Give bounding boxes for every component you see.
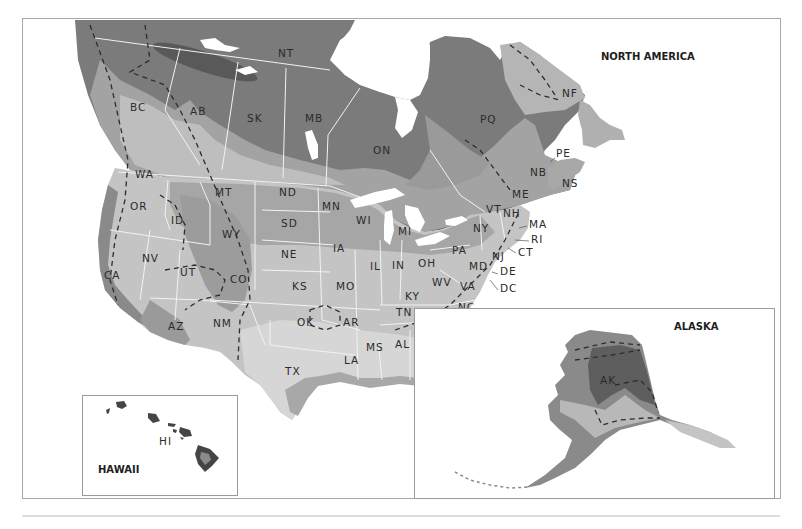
region-label-nt: NT [278,47,294,59]
region-label-ca: CA [104,269,121,281]
region-label-sd: SD [281,217,298,229]
region-label-wi: WI [356,214,371,226]
region-label-ma: MA [529,218,547,230]
region-label-ut: UT [180,266,196,278]
region-label-wa: WA [135,168,154,180]
region-label-il: IL [370,260,381,272]
region-label-az: AZ [168,320,184,332]
region-label-pe: PE [556,147,571,159]
north-america-zone-map: NORTH AMERICA NTBCABSKMBONPQNFPENBNS WAO… [0,0,802,529]
region-label-oh: OH [418,257,436,269]
region-label-ok: OK [297,316,314,328]
region-label-va: VA [460,280,476,292]
region-label-ne: NE [281,248,298,260]
region-label-or: OR [130,200,148,212]
region-label-nf: NF [562,87,578,99]
region-label-nh: NH [503,207,521,219]
alaska-inset: ALASKA AK [415,309,775,499]
region-label-ny: NY [473,222,489,234]
region-label-ky: KY [405,290,420,302]
region-label-vt: VT [486,203,502,215]
map-title: NORTH AMERICA [601,51,695,62]
alaska-label: AK [600,374,616,386]
region-label-ar: AR [343,316,359,328]
region-label-ri: RI [531,233,543,245]
region-label-sk: SK [247,112,263,124]
hawaii-inset-title: HAWAII [98,464,139,475]
region-label-dc: DC [500,282,517,294]
region-label-md: MD [469,260,488,272]
region-label-pa: PA [452,244,467,256]
region-label-mt: MT [215,186,232,198]
region-label-de: DE [500,265,517,277]
region-label-wy: WY [222,228,241,240]
region-label-al: AL [395,338,410,350]
region-label-nd: ND [279,186,297,198]
region-label-ct: CT [518,246,534,258]
region-label-tn: TN [395,306,412,318]
region-label-mn: MN [322,200,341,212]
region-label-co: CO [230,273,248,285]
region-label-mo: MO [336,280,355,292]
region-label-id: ID [171,214,184,226]
region-label-la: LA [344,354,359,366]
region-label-ns: NS [562,177,579,189]
hawaii-label: HI [159,435,172,447]
region-label-bc: BC [130,101,146,113]
region-label-mi: MI [398,225,412,237]
region-label-tx: TX [284,365,301,377]
region-label-ks: KS [292,280,308,292]
region-label-ms: MS [366,341,384,353]
region-label-mb: MB [305,112,323,124]
region-label-nb: NB [530,166,547,178]
region-label-nm: NM [213,317,232,329]
region-label-nj: NJ [492,250,505,262]
region-label-on: ON [373,144,391,156]
hawaii-inset: HAWAII HI [83,396,238,496]
region-label-in: IN [392,259,405,271]
region-label-ia: IA [333,242,345,254]
region-label-nv: NV [142,252,159,264]
region-label-wv: WV [432,276,452,288]
alaska-inset-title: ALASKA [674,321,719,332]
region-label-pq: PQ [480,113,497,125]
region-label-ab: AB [190,105,206,117]
region-label-me: ME [512,188,530,200]
